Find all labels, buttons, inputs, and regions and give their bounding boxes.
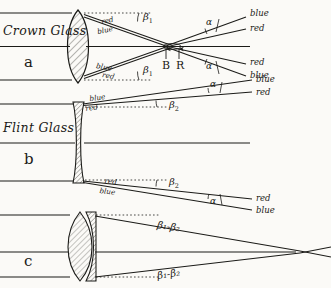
- panel-letter-a: a: [24, 55, 33, 70]
- achromatic-doublet-lens: [68, 212, 96, 281]
- alpha-tick-a-top: [216, 19, 219, 32]
- angle-label-beta2-bottom: β2: [169, 177, 179, 190]
- ray-a-out-red-top: [172, 29, 246, 46]
- exit-label-a-red-top: red: [250, 24, 265, 33]
- angle-label-alpha-b-top: α: [210, 80, 216, 89]
- ray-label-b-in-upper-red: red: [85, 104, 98, 113]
- beta2-arc-bottom: [156, 180, 157, 187]
- ray-c-lower-past: [300, 247, 331, 253]
- material-label-flint-glass: Flint Glass: [3, 122, 74, 135]
- alpha-tick-a-bottom: [216, 61, 219, 74]
- material-label-crown-glass: Crown Glass: [3, 25, 86, 38]
- focus-label-B: B: [162, 60, 170, 71]
- angle-label-alpha-a-bottom: α: [206, 62, 212, 71]
- ray-c-upper: [95, 216, 300, 251]
- panel-letter-c: c: [24, 254, 32, 269]
- beta1-arc-top: [137, 13, 139, 22]
- angle-label-alpha-b-bottom: α: [210, 197, 216, 206]
- ray-label-b-in-lower-red: red: [104, 177, 117, 186]
- ray-label-a-in-lower-red: red: [102, 71, 115, 80]
- angle-label-beta1-bottom: β1: [143, 65, 153, 78]
- panel-b-rays: [0, 80, 252, 210]
- ray-label-b-in-lower-blue: blue: [99, 187, 116, 196]
- angle-label-alpha-a-top: α: [206, 18, 212, 27]
- panel-letter-b: b: [24, 152, 34, 167]
- exit-label-b-red-top: red: [256, 88, 271, 97]
- exit-label-a-blue-top: blue: [250, 9, 269, 18]
- ray-c-lower: [95, 253, 300, 277]
- beta2-arc-top: [156, 101, 157, 108]
- ray-label-b-in-upper-blue: blue: [89, 93, 106, 102]
- angle-label-beta1-top: β1: [143, 12, 153, 25]
- focus-label-R: R: [176, 60, 184, 71]
- ray-b-upper-blue: [83, 80, 252, 104]
- exit-label-b-blue-bottom: blue: [256, 206, 275, 215]
- exit-label-b-red-bottom: red: [256, 194, 271, 203]
- alpha-arc-b-top: [208, 88, 209, 93]
- ray-b-upper-red: [83, 92, 252, 106]
- beta1-arc-bottom: [137, 72, 139, 81]
- figure-canvas: [0, 0, 331, 288]
- exit-label-b-blue-top: blue: [256, 75, 275, 84]
- optics-figure: Crown Glass a red blue blue red β1 β1 B …: [0, 0, 331, 288]
- alpha-tick-b-top: [220, 82, 222, 93]
- exit-label-a-red-bottom: red: [250, 58, 265, 67]
- crown-glass-lens: [68, 10, 89, 83]
- angle-label-beta2-top: β2: [169, 100, 179, 113]
